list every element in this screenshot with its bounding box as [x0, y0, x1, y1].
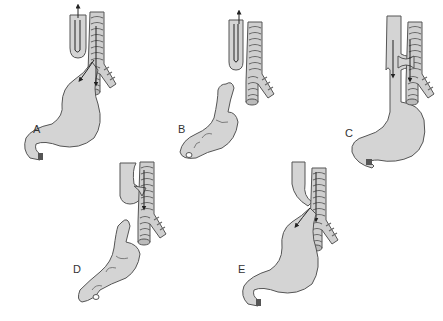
- stomach: [180, 83, 238, 159]
- trachea: [246, 22, 274, 105]
- trachea: [138, 162, 166, 245]
- stomach: [243, 208, 319, 306]
- panel-label-c: C: [345, 128, 353, 139]
- panel-label-e: E: [238, 264, 245, 275]
- panel-a: [25, 6, 116, 160]
- panel-c: [352, 16, 434, 168]
- stomach: [25, 62, 101, 160]
- panel-label-d: D: [73, 264, 81, 275]
- stomach: [78, 220, 140, 302]
- diagram-canvas: [0, 0, 443, 321]
- panel-b: [180, 12, 274, 158]
- panel-d: [78, 162, 166, 302]
- panel-label-a: A: [33, 124, 40, 135]
- trachea: [310, 168, 338, 251]
- esophageal-pouch-with-fistula: [292, 162, 312, 206]
- panel-e: [243, 162, 338, 306]
- panel-label-b: B: [178, 124, 185, 135]
